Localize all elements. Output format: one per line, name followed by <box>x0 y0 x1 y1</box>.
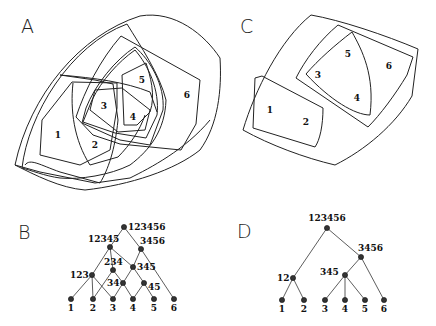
leaf-label: 2 <box>301 304 307 314</box>
node-label: 12 <box>277 273 290 283</box>
tree-leaf-node <box>171 296 176 301</box>
node-label: 45 <box>148 282 161 292</box>
leaf-label: 4 <box>130 303 136 313</box>
tree-node <box>89 272 94 277</box>
tree-edge <box>293 278 304 300</box>
region-label: 6 <box>184 90 190 100</box>
leaf-label: 3 <box>110 303 116 313</box>
tree-leaf-node <box>110 296 115 301</box>
leaf-label: 3 <box>322 304 328 314</box>
region-outline-123456 <box>15 15 220 190</box>
panel-d-tree: 123456 3456 12 345 1 2 3 4 5 6 <box>277 213 387 314</box>
tree-node <box>120 280 125 285</box>
region-outline-45 <box>122 63 153 125</box>
region-label: 2 <box>303 117 309 127</box>
node-label: 123456 <box>308 213 346 223</box>
tree-leaf-node <box>279 297 284 302</box>
node-label: 345 <box>320 267 339 277</box>
tree-node <box>110 267 115 272</box>
leaf-label: 4 <box>342 304 348 314</box>
tree-edge <box>345 275 365 300</box>
node-label: 345 <box>137 262 156 272</box>
tree-leaf-node <box>90 296 95 301</box>
tree-leaf-node <box>151 296 156 301</box>
tree-leaf-node <box>362 297 367 302</box>
node-label: 123 <box>70 270 89 280</box>
tree-leaf-node <box>301 297 306 302</box>
tree-node <box>290 275 295 280</box>
panel-c-euler-diagram <box>243 15 418 165</box>
region-outline-12345 <box>22 24 166 178</box>
leaf-label: 1 <box>279 304 285 314</box>
tree-node <box>138 246 143 251</box>
tree-node-labels: 123456 3456 12 345 1 2 3 4 5 6 <box>277 213 387 314</box>
leaf-label: 6 <box>381 304 387 314</box>
leaf-label: 5 <box>362 304 368 314</box>
tree-nodes <box>279 225 386 302</box>
tree-edges <box>282 228 384 300</box>
region-label: 5 <box>345 49 351 59</box>
leaf-label: 1 <box>68 303 74 313</box>
region-outline-123456 <box>243 15 418 165</box>
tree-edge <box>345 257 361 275</box>
region-label: 4 <box>354 93 360 103</box>
node-label: 12345 <box>88 234 119 244</box>
node-label: 34 <box>107 278 120 288</box>
region-label: 3 <box>315 70 321 80</box>
tree-node <box>130 264 135 269</box>
region-label: 3 <box>101 101 107 111</box>
leaf-label: 5 <box>151 303 157 313</box>
tree-edge <box>133 283 144 299</box>
panel-b-tree: 123456 12345 3456 234 345 123 34 45 1 2 … <box>68 222 177 313</box>
leaf-label: 2 <box>90 303 96 313</box>
tree-edge <box>325 275 345 300</box>
tree-node <box>107 244 112 249</box>
region-label: 6 <box>386 61 392 71</box>
tree-node <box>141 280 146 285</box>
region-label: 1 <box>55 130 61 140</box>
tree-node <box>324 225 329 230</box>
tree-leaf-node <box>130 296 135 301</box>
region-label: 1 <box>267 105 273 115</box>
tree-leaf-node <box>381 297 386 302</box>
node-label: 3456 <box>358 243 383 253</box>
leaf-label: 6 <box>171 303 177 313</box>
region-label: 5 <box>139 75 145 85</box>
region-outline-12 <box>253 76 323 147</box>
tree-leaf-node <box>342 297 347 302</box>
region-outline-1 <box>40 82 117 165</box>
tree-edge <box>361 257 384 300</box>
tree-edge <box>92 275 93 299</box>
tree-node <box>358 254 363 259</box>
node-label: 123456 <box>128 222 166 232</box>
region-label: 2 <box>92 140 98 150</box>
tree-leaf-node <box>68 296 73 301</box>
node-label: 3456 <box>140 236 165 246</box>
tree-node <box>121 224 126 229</box>
node-label: 234 <box>104 257 123 267</box>
panel-a-euler-diagram <box>15 15 220 190</box>
tree-node-labels: 123456 12345 3456 234 345 123 34 45 1 2 … <box>68 222 177 313</box>
region-label: 4 <box>130 112 136 122</box>
figure-canvas: 1 2 3 4 5 6 1 2 3 4 5 6 <box>0 0 436 326</box>
tree-edge <box>327 228 361 257</box>
tree-leaf-node <box>322 297 327 302</box>
tree-node <box>342 272 347 277</box>
